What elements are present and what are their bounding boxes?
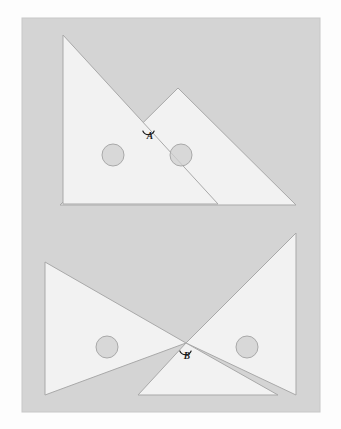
figure-root: A B: [0, 0, 341, 429]
lower-hole-left: [96, 336, 118, 358]
upper-hole-right: [170, 144, 192, 166]
upper-hole-left: [102, 144, 124, 166]
lower-angle-label: B: [183, 351, 190, 361]
lower-hole-right: [236, 336, 258, 358]
upper-angle-label: A: [146, 131, 153, 141]
geometry-diagram: A B: [0, 0, 341, 429]
